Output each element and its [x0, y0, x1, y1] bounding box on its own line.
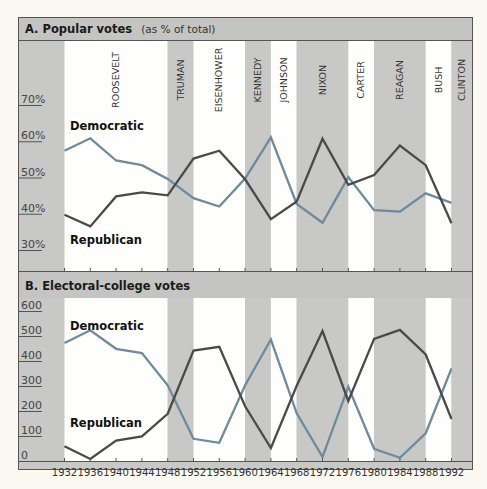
x-tick-label: 1952 — [181, 467, 206, 478]
y-tick-label: 400 — [21, 349, 42, 362]
y-tick-label: 100 — [21, 424, 42, 437]
x-tick-label: 1984 — [387, 467, 412, 478]
y-tick-label: 60% — [21, 129, 45, 142]
panel-b-title: B. Electoral-college votes — [25, 279, 190, 293]
panel-a-subtitle: (as % of total) — [141, 23, 215, 35]
y-tick-label: 500 — [21, 324, 42, 337]
annotation-republican: Republican — [70, 416, 142, 430]
president-label-clinton: CLINTON — [456, 59, 467, 101]
x-tick-label: 1960 — [232, 467, 257, 478]
president-label-truman: TRUMAN — [175, 59, 186, 101]
x-tick-label: 1980 — [361, 467, 386, 478]
president-label-johnson: JOHNSON — [278, 57, 289, 103]
annotation-republican: Republican — [70, 233, 142, 247]
y-tick-label: 70% — [21, 93, 45, 106]
y-tick-label: 600 — [21, 299, 42, 312]
x-tick-label: 1964 — [258, 467, 283, 478]
x-tick-label: 1992 — [439, 467, 464, 478]
x-tick-label: 1948 — [155, 467, 180, 478]
president-label-nixon: NIXON — [317, 65, 328, 95]
x-tick-label: 1944 — [129, 467, 154, 478]
y-tick-label: 0 — [21, 449, 28, 462]
x-axis-ticks: 1932193619401944194819521956196019641968… — [52, 467, 464, 478]
y-tick-label: 40% — [21, 202, 45, 215]
x-tick-label: 1936 — [78, 467, 103, 478]
x-tick-label: 1932 — [52, 467, 77, 478]
president-band-clinton — [452, 298, 473, 461]
y-tick-label: 200 — [21, 399, 42, 412]
presidential-votes-chart: A. Popular votes (as % of total) ROOSEVE… — [0, 0, 487, 489]
president-label-kennedy: KENNEDY — [252, 57, 263, 102]
x-tick-label: 1968 — [284, 467, 309, 478]
annotation-democratic: Democratic — [70, 319, 144, 333]
president-label-reagan: REAGAN — [394, 60, 405, 100]
x-tick-label: 1976 — [336, 467, 361, 478]
president-label-roosevelt: ROOSEVELT — [110, 52, 121, 108]
president-label-eisenhower: EISENHOWER — [213, 47, 224, 112]
y-tick-label: 300 — [21, 374, 42, 387]
x-tick-label: 1988 — [413, 467, 438, 478]
y-tick-label: 50% — [21, 166, 45, 179]
president-band-eisenhower — [194, 298, 246, 461]
x-tick-label: 1956 — [207, 467, 232, 478]
annotation-democratic: Democratic — [70, 119, 144, 133]
panel-a-title: A. Popular votes — [25, 22, 132, 36]
president-label-carter: CARTER — [355, 61, 366, 99]
x-tick-label: 1972 — [310, 467, 335, 478]
y-tick-label: 30% — [21, 238, 45, 251]
x-tick-label: 1940 — [103, 467, 128, 478]
president-band-reagan — [374, 298, 426, 461]
president-label-bush: BUSH — [433, 67, 444, 94]
